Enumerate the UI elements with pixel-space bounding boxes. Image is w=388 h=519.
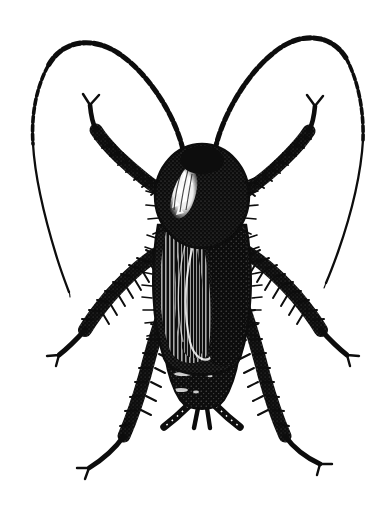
head-plate: [180, 146, 224, 174]
illustration-canvas: Cockroach Black and white engraved illus…: [0, 0, 388, 519]
cockroach-illustration: [0, 0, 388, 519]
